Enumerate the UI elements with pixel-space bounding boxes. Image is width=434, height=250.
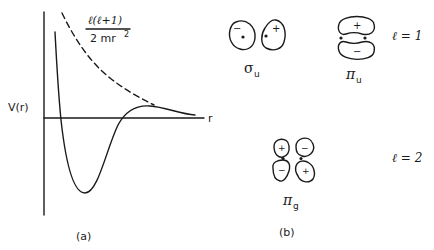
sign-plus: + <box>278 143 286 153</box>
y-axis-label: V(r) <box>8 101 29 114</box>
formula-denominator: 2 mr <box>90 32 116 45</box>
l-equals-2-label: ℓ = 2 <box>392 151 422 165</box>
pi-u-subscript: u <box>356 75 362 85</box>
pi-u-orbital: + − π u <box>338 17 374 86</box>
x-axis-label: r <box>208 112 213 125</box>
pi-g-orbital: + − − + π g <box>273 138 315 211</box>
sigma-u-symbol: σ <box>244 60 254 76</box>
caption-b: (b) <box>279 226 295 239</box>
sign-minus: − <box>301 143 309 153</box>
pi-u-symbol: π <box>345 66 356 82</box>
sign-plus: + <box>272 23 280 34</box>
sign-minus: − <box>233 23 241 34</box>
sign-plus: + <box>302 166 310 176</box>
nucleus-dot <box>363 36 366 39</box>
pi-g-subscript: g <box>293 201 299 211</box>
effective-potential-curve <box>55 32 195 193</box>
sign-minus: − <box>353 46 361 57</box>
formula-numerator: ℓ(ℓ+1) <box>88 14 122 27</box>
nucleus-dot <box>339 36 342 39</box>
caption-a: (a) <box>76 230 91 243</box>
nucleus-dot <box>299 157 302 160</box>
sigma-u-subscript: u <box>254 69 260 79</box>
sign-minus: − <box>278 165 286 175</box>
nucleus-dot <box>241 35 244 38</box>
panel-a: V(r) r ℓ(ℓ+1) 2 mr 2 (a) <box>8 12 213 243</box>
centrifugal-term-label: ℓ(ℓ+1) 2 mr 2 <box>86 14 130 45</box>
formula-exponent: 2 <box>124 30 129 39</box>
panel-b: − + σ u + − π u ℓ = 1 + − − <box>229 17 422 240</box>
nucleus-dot <box>264 34 267 37</box>
figure: V(r) r ℓ(ℓ+1) 2 mr 2 (a) − + σ u + <box>0 0 434 250</box>
nucleus-dot <box>281 157 284 160</box>
l-equals-1-label: ℓ = 1 <box>392 29 422 43</box>
sign-plus: + <box>353 20 361 31</box>
pi-g-symbol: π <box>282 192 293 208</box>
sigma-u-orbital: − + σ u <box>229 20 285 79</box>
